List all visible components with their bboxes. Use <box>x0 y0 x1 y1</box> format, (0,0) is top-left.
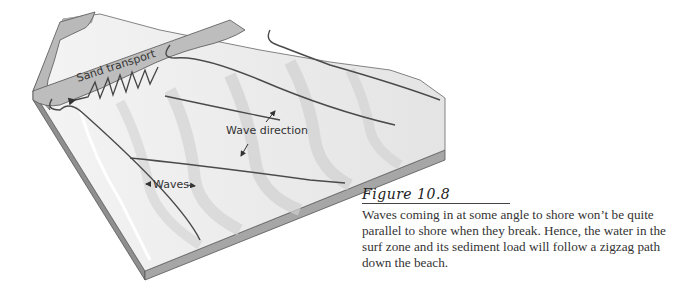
figure-caption: Figure 10.8 Waves coming in at some angl… <box>362 186 682 271</box>
waves-label: Waves <box>153 178 189 191</box>
wave-direction-label: Wave direction <box>226 124 308 137</box>
figure-caption-text: Waves coming in at some angle to shore w… <box>362 207 682 271</box>
figure-title: Figure 10.8 <box>362 186 510 204</box>
